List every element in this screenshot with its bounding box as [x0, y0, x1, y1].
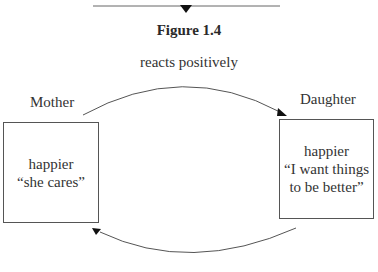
mother-label: Mother	[30, 94, 74, 111]
arc-mother-to-daughter	[83, 87, 280, 115]
top-arrow-label: reacts positively	[0, 54, 378, 71]
daughter-line-3: to be better”	[289, 178, 363, 196]
figure-title: Figure 1.4	[0, 22, 378, 39]
arrowhead-to-daughter-icon	[277, 108, 287, 116]
mother-line-1: happier	[29, 155, 74, 173]
daughter-label: Daughter	[300, 91, 356, 108]
arrowhead-to-mother-icon	[92, 228, 101, 235]
daughter-box: happier “I want things to be better”	[279, 119, 374, 219]
daughter-line-1: happier	[304, 142, 349, 160]
daughter-line-2: “I want things	[284, 160, 369, 178]
arc-daughter-to-mother	[100, 228, 296, 253]
mother-box: happier “she cares”	[3, 122, 99, 223]
mother-line-2: “she cares”	[17, 173, 85, 191]
down-triangle-icon	[180, 5, 192, 13]
